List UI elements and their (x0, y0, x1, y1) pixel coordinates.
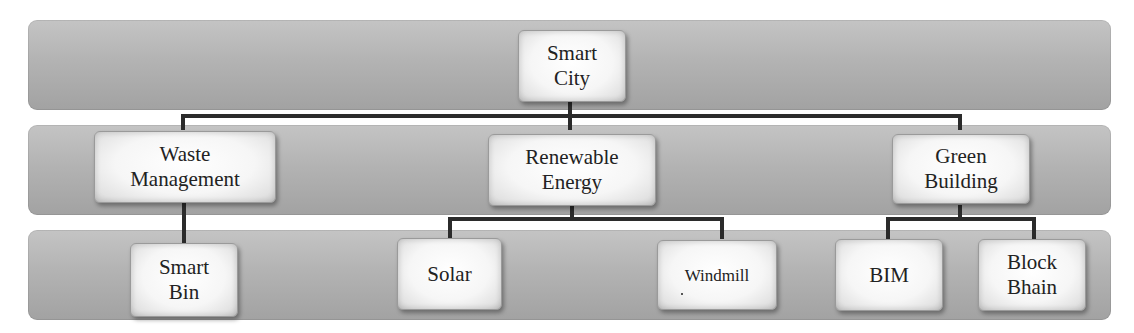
connector-to-blockbhain (1032, 217, 1036, 239)
connector-waste-to-smartbin (182, 203, 186, 243)
node-bim: BIM (835, 239, 943, 311)
node-block-bhain: Block Bhain (978, 239, 1086, 311)
node-green-building: Green Building (892, 134, 1030, 204)
node-windmill: Windmill (657, 240, 777, 310)
connector-renewable-horizontal (448, 217, 724, 221)
connector-level2-horizontal (181, 114, 962, 118)
connector-to-bim (886, 217, 890, 239)
connector-to-windmill (720, 217, 724, 239)
connector-to-green-building (958, 114, 962, 130)
node-smart-bin: Smart Bin (130, 243, 238, 317)
connector-to-waste-management (181, 114, 185, 130)
node-solar: Solar (397, 238, 502, 310)
node-smart-city: Smart City (518, 30, 626, 102)
node-waste-management: Waste Management (94, 131, 276, 203)
connector-to-solar (448, 217, 452, 239)
stray-dot (681, 293, 683, 295)
node-renewable-energy: Renewable Energy (488, 134, 656, 206)
connector-green-horizontal (886, 217, 1036, 221)
